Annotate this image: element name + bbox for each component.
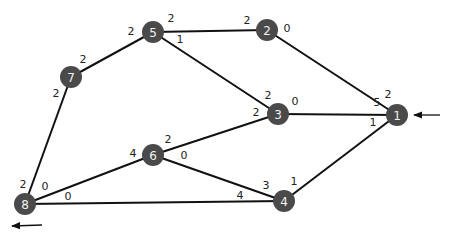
weight-label: 1 [291, 175, 298, 188]
weight-label: 5 [374, 96, 381, 109]
outgoing-arrow-icon [12, 225, 42, 226]
weight-label: 2 [244, 14, 251, 27]
node-6: 6 [142, 144, 164, 166]
edge-5-2 [153, 30, 267, 32]
edge-3-6 [153, 114, 278, 155]
weight-label: 1 [177, 33, 184, 46]
weight-label: 2 [253, 106, 260, 119]
node-3: 3 [267, 103, 289, 125]
weight-label: 1 [370, 116, 377, 129]
weight-label: 2 [165, 133, 172, 146]
node-label: 6 [149, 149, 157, 163]
node-5: 5 [142, 21, 164, 43]
node-label: 5 [149, 26, 157, 40]
node-7: 7 [60, 66, 82, 88]
edge-1-4 [284, 115, 397, 201]
weight-label: 2 [20, 178, 27, 191]
node-label: 4 [280, 195, 288, 209]
node-1: 1 [386, 104, 408, 126]
node-4: 4 [273, 190, 295, 212]
node-8: 8 [14, 193, 36, 215]
weight-label: 2 [53, 87, 60, 100]
weight-label: 0 [284, 22, 291, 35]
weight-label: 2 [80, 53, 87, 66]
node-label: 8 [21, 198, 29, 212]
weight-label: 2 [168, 12, 175, 25]
graph-diagram: 12345678 2212022220521420314200 [0, 0, 451, 235]
weight-label: 2 [128, 25, 135, 38]
weight-label: 3 [263, 179, 270, 192]
weight-label: 0 [181, 149, 188, 162]
node-label: 2 [263, 24, 271, 38]
weight-label: 0 [292, 95, 299, 108]
node-2: 2 [256, 19, 278, 41]
weight-label: 0 [42, 180, 49, 193]
edge-3-1 [278, 114, 397, 115]
weight-label: 4 [237, 189, 244, 202]
node-label: 7 [67, 71, 75, 85]
weight-label: 2 [265, 89, 272, 102]
node-label: 1 [393, 109, 401, 123]
weight-label: 4 [130, 147, 137, 160]
weight-label: 2 [385, 88, 392, 101]
edge-5-3 [153, 32, 278, 114]
weight-label: 0 [65, 190, 72, 203]
node-label: 3 [274, 108, 282, 122]
